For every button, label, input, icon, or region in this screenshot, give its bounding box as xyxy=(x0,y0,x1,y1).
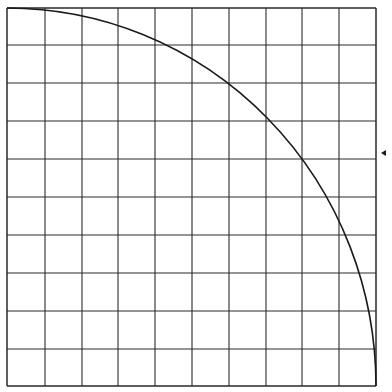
quarter-circle-grid-diagram xyxy=(0,0,392,392)
arrowhead-marker-icon xyxy=(381,150,386,156)
grid xyxy=(7,8,376,386)
